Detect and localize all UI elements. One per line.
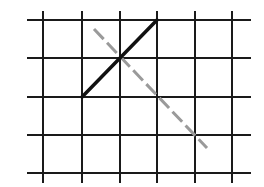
- background: [0, 0, 264, 187]
- grid-diagram: [0, 0, 264, 187]
